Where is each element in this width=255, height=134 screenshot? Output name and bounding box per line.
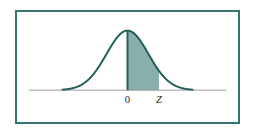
normal-distribution-chart: 0 Z: [17, 12, 238, 122]
figure-frame: 0 Z: [15, 10, 240, 124]
shaded-area-region: [128, 31, 159, 91]
chart-plot-area: 0 Z: [29, 31, 226, 105]
x-tick-label-z: Z: [156, 93, 163, 105]
x-tick-label-zero: 0: [125, 93, 130, 105]
